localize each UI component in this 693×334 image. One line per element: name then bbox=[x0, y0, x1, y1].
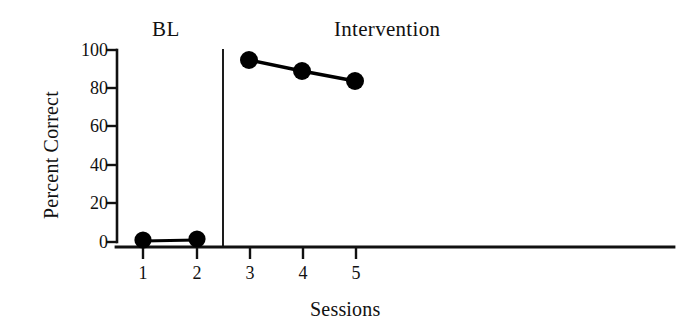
x-tick-label-1: 1 bbox=[139, 264, 148, 282]
x-tick-label-3: 3 bbox=[246, 264, 255, 282]
x-tick-label-5: 5 bbox=[352, 264, 361, 282]
x-tick-label-4: 4 bbox=[299, 264, 308, 282]
chart-figure: BL Intervention Percent Correct Sessions… bbox=[0, 0, 693, 334]
x-axis-tick-labels: 1 2 3 4 5 bbox=[0, 0, 693, 334]
x-tick-label-2: 2 bbox=[193, 264, 202, 282]
